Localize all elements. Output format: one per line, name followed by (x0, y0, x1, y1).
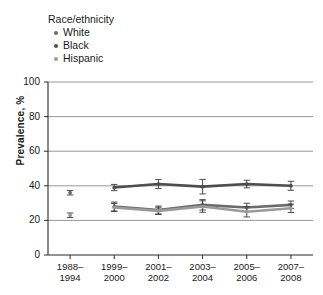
x-tick-label: 2007–2008 (263, 261, 319, 283)
x-tick-marks (70, 255, 291, 259)
x-tick-label-line1: 2007– (263, 261, 319, 272)
plot-area (0, 0, 323, 295)
y-tick-label: 40 (14, 181, 40, 191)
gridlines (48, 82, 313, 220)
y-tick-label: 60 (14, 146, 40, 156)
y-tick-label: 20 (14, 215, 40, 225)
y-tick-label: 80 (14, 112, 40, 122)
axis-lines (44, 82, 313, 255)
x-tick-label-line2: 2008 (263, 272, 319, 283)
y-tick-label: 0 (14, 250, 40, 260)
chart-figure: Race/ethnicity White Black Hispanic Prev… (0, 0, 323, 295)
data-series-layer (67, 179, 294, 217)
y-tick-label: 100 (14, 77, 40, 87)
